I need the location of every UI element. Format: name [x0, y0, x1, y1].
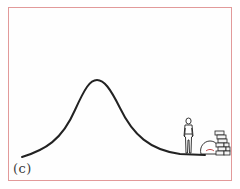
panel-label: (c) [13, 161, 32, 176]
brick-stack-icon [215, 131, 230, 155]
hump-curve [22, 80, 205, 157]
person-icon [184, 118, 193, 153]
diagram-canvas [0, 0, 240, 189]
